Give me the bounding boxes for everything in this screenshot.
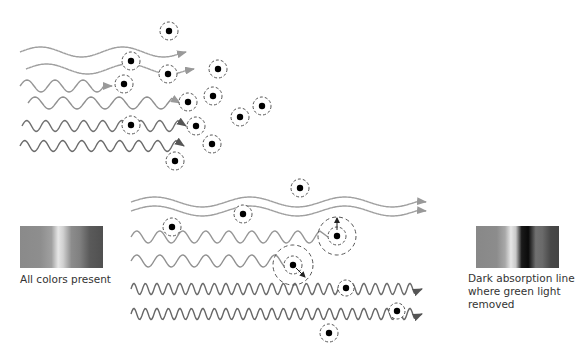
- nucleus: [326, 330, 332, 336]
- nucleus: [237, 114, 243, 120]
- atom: [338, 280, 354, 296]
- nucleus: [209, 141, 215, 147]
- violet-wave: [20, 141, 184, 152]
- nucleus: [334, 233, 340, 239]
- caption-line: Dark absorption line: [468, 272, 578, 285]
- caption-line: removed: [468, 298, 578, 311]
- atom: [122, 52, 140, 70]
- yellow-wave: [20, 80, 112, 92]
- atom: [179, 93, 197, 111]
- atom: [203, 135, 221, 153]
- nucleus: [240, 211, 246, 217]
- absorbed-wave: [131, 231, 328, 243]
- excited-atom: [273, 245, 313, 285]
- caption-line: where green light: [468, 285, 578, 298]
- nucleus: [165, 71, 171, 77]
- atom: [187, 117, 205, 135]
- atom: [159, 65, 177, 83]
- atom: [163, 218, 181, 236]
- atoms: [115, 22, 405, 342]
- absorbed-wave: [131, 255, 293, 267]
- absorption-spectrum-caption: Dark absorption line where green light r…: [468, 272, 578, 311]
- nucleus: [172, 158, 178, 164]
- blue-wave: [131, 284, 422, 295]
- atom: [204, 87, 222, 105]
- nucleus: [343, 285, 349, 291]
- atom: [234, 205, 252, 223]
- nucleus: [169, 224, 175, 230]
- excited-atom: [318, 217, 356, 255]
- atom: [122, 116, 140, 134]
- atom: [253, 97, 271, 115]
- nucleus: [394, 308, 400, 314]
- nucleus: [121, 81, 127, 87]
- orange-wave: [131, 206, 426, 216]
- nucleus: [290, 262, 296, 268]
- nucleus: [185, 99, 191, 105]
- atom: [231, 108, 249, 126]
- green-wave: [28, 97, 180, 109]
- atom: [209, 60, 227, 78]
- continuous-spectrum-icon: [20, 226, 103, 268]
- nucleus: [166, 28, 172, 34]
- absorption-spectrum-icon: [476, 226, 559, 268]
- continuous-spectrum-caption: All colors present: [20, 273, 111, 286]
- red-wave: [20, 47, 186, 57]
- atom: [115, 75, 133, 93]
- nucleus: [215, 66, 221, 72]
- nucleus: [128, 122, 134, 128]
- atom: [160, 22, 178, 40]
- blue-wave: [22, 121, 186, 132]
- nucleus: [193, 123, 199, 129]
- atom: [389, 303, 405, 319]
- atom: [166, 152, 184, 170]
- violet-wave: [131, 309, 422, 320]
- nucleus: [128, 58, 134, 64]
- atom: [320, 324, 338, 342]
- nucleus: [297, 185, 303, 191]
- atom: [291, 179, 309, 197]
- red-wave: [131, 197, 426, 207]
- nucleus: [210, 93, 216, 99]
- nucleus: [259, 103, 265, 109]
